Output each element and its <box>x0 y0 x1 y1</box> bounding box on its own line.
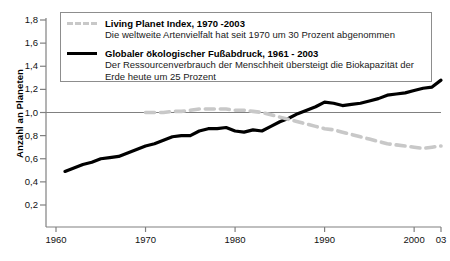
legend-swatch-dashed-icon <box>67 22 97 25</box>
y-tick-label: 1,2 <box>14 83 38 94</box>
legend-swatch-solid-icon <box>67 52 97 56</box>
y-tick-label: 1,4 <box>14 60 38 71</box>
y-tick-label: 0,6 <box>14 153 38 164</box>
x-tick-label: 1960 <box>45 234 66 245</box>
series-line-footprint <box>65 80 441 171</box>
x-tick-label: 1990 <box>314 234 335 245</box>
x-tick-label: 2000 <box>404 234 425 245</box>
x-tick-label: 1980 <box>224 234 245 245</box>
legend-entry-lpi: Living Planet Index, 1970 -2003 Die welt… <box>67 18 425 41</box>
chart-legend: Living Planet Index, 1970 -2003 Die welt… <box>60 12 432 82</box>
chart-container: Anzahl an Planeten 0,20,40,60,81,01,21,4… <box>0 0 450 261</box>
x-tick-label: 03 <box>436 234 447 245</box>
y-tick-label: 0,2 <box>14 199 38 210</box>
legend-entry-footprint: Globaler ökologischer Fußabdruck, 1961 -… <box>67 48 425 83</box>
y-tick-label: 1,8 <box>14 14 38 25</box>
y-tick-label: 0,4 <box>14 176 38 187</box>
data-series-layer <box>65 80 441 171</box>
legend-title-footprint: Globaler ökologischer Fußabdruck, 1961 -… <box>105 48 318 59</box>
legend-desc-footprint: Der Ressourcenverbrauch der Menschheit ü… <box>105 59 425 83</box>
y-tick-label: 0,8 <box>14 130 38 141</box>
y-tick-label: 1,6 <box>14 37 38 48</box>
legend-title-lpi: Living Planet Index, 1970 -2003 <box>105 18 245 29</box>
y-tick-label: 1,0 <box>14 107 38 118</box>
x-tick-label: 1970 <box>135 234 156 245</box>
legend-desc-lpi: Die weltweite Artenvielfalt hat seit 197… <box>105 29 425 41</box>
